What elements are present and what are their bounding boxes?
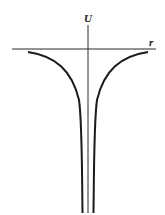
- potential-curve-left: [28, 52, 83, 213]
- potential-diagram: U r: [0, 0, 165, 215]
- r-axis-label: r: [149, 36, 154, 48]
- u-axis-label: U: [84, 12, 93, 24]
- potential-curve-right: [94, 52, 149, 213]
